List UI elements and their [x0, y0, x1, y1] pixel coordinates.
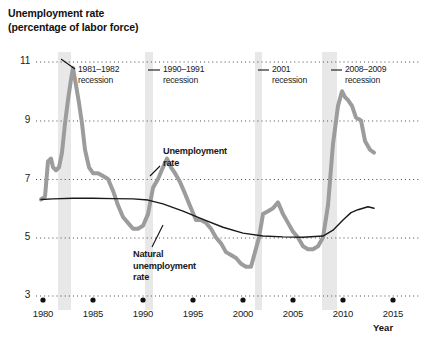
- x-tick-marker: [190, 297, 195, 302]
- y-axis-tick-label: 11: [12, 55, 30, 66]
- x-axis-tick-label: 1980: [23, 308, 63, 319]
- annotation-line-1: 2008–2009: [345, 64, 386, 74]
- annotation-line-2: recession: [272, 75, 307, 85]
- annotation-line-1: 1981–1982: [78, 64, 119, 74]
- annotation-recession-1990-1991: 1990–1991recession: [163, 64, 204, 86]
- recession-band: [255, 52, 262, 310]
- x-axis-tick-label: 1995: [173, 308, 213, 319]
- x-axis-tick-label: 2015: [373, 308, 413, 319]
- annotation-line-1: 2001: [272, 64, 290, 74]
- annotation-recession-2008-2009: 2008–2009recession: [345, 64, 386, 86]
- x-axis-tick-label: 1985: [73, 308, 113, 319]
- annotation-recession-2001: 2001recession: [272, 64, 307, 86]
- annotation-line-2: unemployment: [133, 261, 196, 271]
- x-tick-marker: [290, 297, 295, 302]
- x-axis-tick-label: 2000: [223, 308, 263, 319]
- plot-canvas: [0, 0, 426, 341]
- gridlines-group: [36, 62, 420, 296]
- annotation-line-2: recession: [78, 75, 113, 85]
- x-axis-title: Year: [373, 322, 393, 333]
- x-tick-marker: [340, 297, 345, 302]
- y-axis-tick-label: 5: [12, 231, 30, 242]
- annotation-line-2: recession: [163, 75, 198, 85]
- recession-bands-group: [58, 52, 337, 310]
- annotation-leader-line: [152, 225, 163, 247]
- y-axis-tick-label: 9: [12, 114, 30, 125]
- x-tick-marker: [390, 297, 395, 302]
- annotation-line-1: 1990–1991: [163, 64, 204, 74]
- annotation-line-3: rate: [133, 272, 149, 282]
- x-tick-marker: [90, 297, 95, 302]
- x-tick-marker: [40, 297, 45, 302]
- annotation-line-1: Unemployment: [163, 146, 227, 156]
- x-tick-marker: [140, 297, 145, 302]
- x-tick-markers-group: [40, 297, 395, 302]
- annotation-recession-1981-1982: 1981–1982recession: [78, 64, 119, 86]
- y-axis-tick-label: 3: [12, 289, 30, 300]
- y-axis-tick-label: 7: [12, 173, 30, 184]
- x-tick-marker: [240, 297, 245, 302]
- annotation-unemployment-rate: Unemploymentrate: [163, 146, 227, 169]
- annotation-natural-rate: Naturalunemploymentrate: [133, 249, 196, 284]
- annotation-line-2: recession: [345, 75, 380, 85]
- unemployment-rate-chart: Unemployment rate(percentage of labor fo…: [0, 0, 426, 341]
- x-axis-tick-label: 2005: [273, 308, 313, 319]
- x-axis-tick-label: 2010: [323, 308, 363, 319]
- annotation-line-1: Natural: [133, 249, 163, 259]
- annotation-line-2: rate: [163, 158, 179, 168]
- x-axis-tick-label: 1990: [123, 308, 163, 319]
